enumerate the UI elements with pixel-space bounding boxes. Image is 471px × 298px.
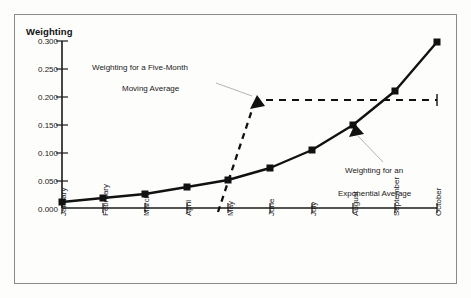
moving-average-leader-line (216, 83, 252, 96)
moving-average-arrowhead (250, 95, 265, 109)
exponential-average-leader-line (358, 136, 383, 162)
exponential-average-series (62, 42, 437, 202)
chart-figure: Weighting 0.300 0.250 0.200 0.150 0.100 … (0, 0, 471, 298)
exponential-average-markers (59, 39, 441, 206)
moving-average-dashed-series (218, 94, 437, 212)
chart-plot-area (0, 0, 471, 298)
